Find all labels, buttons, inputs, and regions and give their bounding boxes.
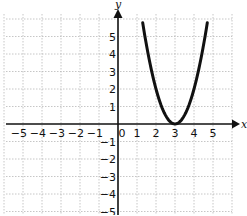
y-tick-label: −1 [100,136,116,149]
x-tick-label: 0 [119,127,126,140]
x-tick-label: 5 [210,127,217,140]
x-tick-label: −4 [30,127,46,140]
x-axis-label: x [241,118,247,131]
x-axis-arrow-icon [232,120,240,129]
x-tick-label: −3 [49,127,65,140]
x-tick-label: 4 [191,127,198,140]
y-tick-label: 5 [109,31,116,44]
x-tick-label: 1 [134,127,141,140]
y-axis-label: y [114,0,122,11]
x-tick-label: 3 [172,127,179,140]
y-tick-label: 2 [109,83,116,96]
y-tick-label: −2 [100,153,116,166]
x-tick-label: 2 [153,127,160,140]
y-tick-label: 1 [109,101,116,114]
parabola-graph: x y −5−4−3−2−101234554321−1−2−3−4−5 [0,0,247,215]
y-tick-label: −5 [100,206,116,216]
y-tick-label: 3 [109,66,116,79]
x-tick-label: −5 [11,127,27,140]
y-tick-label: 4 [109,48,116,61]
x-tick-label: −2 [68,127,84,140]
y-tick-label: −4 [100,188,116,201]
y-tick-label: −3 [100,171,116,184]
